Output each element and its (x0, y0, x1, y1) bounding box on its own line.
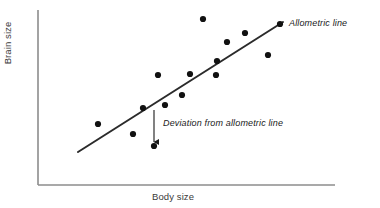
scatter-point (265, 52, 271, 58)
scatter-point (130, 131, 136, 137)
scatter-point (242, 30, 248, 36)
scatter-point (155, 72, 161, 78)
scatter-point (200, 16, 206, 22)
axes (38, 10, 335, 185)
scatter-point (224, 39, 230, 45)
x-axis-label: Body size (152, 191, 194, 202)
scatter-point (162, 102, 168, 108)
allometric-trendline (78, 22, 283, 152)
scatter-point (179, 92, 185, 98)
scatter-point (140, 105, 146, 111)
scatter-point (213, 72, 219, 78)
scatter-point (277, 21, 283, 27)
scatter-point (151, 143, 157, 149)
allometric-line-annotation: Allometric line (289, 18, 347, 28)
plot-canvas (0, 0, 380, 208)
y-axis-label: Brain size (2, 8, 13, 78)
scatter-point (214, 58, 220, 64)
deviation-annotation: Deviation from allometric line (163, 118, 283, 128)
scatter-point (187, 71, 193, 77)
allometry-scatter-figure: Brain size Body size Allometric line Dev… (0, 0, 380, 208)
scatter-point (95, 121, 101, 127)
